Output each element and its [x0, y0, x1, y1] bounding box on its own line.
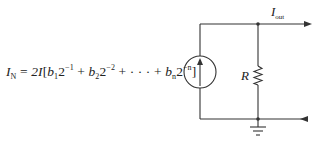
formula-coefficient: 2I	[31, 64, 42, 79]
current-source-arrow-head	[197, 58, 203, 65]
term-n-exp: −n	[183, 63, 192, 72]
junction-top	[256, 22, 260, 26]
return-arrow-icon	[300, 116, 308, 122]
formula-ellipsis: · · ·	[130, 64, 151, 79]
output-arrow-icon	[304, 21, 312, 27]
term-2-exp: −2	[106, 63, 115, 72]
term-n-bit: b	[165, 64, 172, 79]
term-1-exp: −1	[65, 63, 74, 72]
formula-plus-1: +	[77, 64, 85, 79]
formula-lhs-subscript: N	[11, 72, 17, 81]
junction-bottom	[256, 117, 260, 121]
formula-plus-2: +	[119, 64, 127, 79]
term-n-base: 2	[176, 64, 183, 79]
output-current-subscript: out	[275, 13, 284, 21]
resistor-label: R	[241, 68, 249, 84]
formula-plus-3: +	[154, 64, 162, 79]
current-formula: IN = 2I[b12−1 + b22−2 + · · · + bn2−n]	[6, 63, 196, 81]
output-current-label: Iout	[271, 4, 284, 21]
formula-equals: =	[20, 64, 28, 79]
circuit-diagram: IN = 2I[b12−1 + b22−2 + · · · + bn2−n] R…	[0, 0, 321, 148]
resistor-icon	[254, 66, 262, 85]
formula-close-bracket: ]	[192, 64, 197, 79]
